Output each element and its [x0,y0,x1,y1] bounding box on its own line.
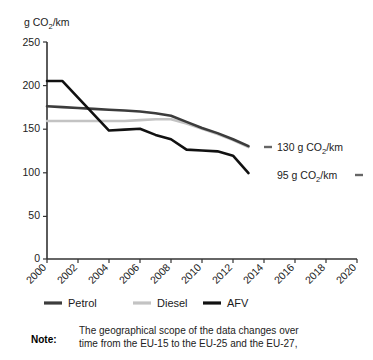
note-label: Note: [31,334,57,345]
x-tick-label: 2002 [54,261,79,286]
x-tick-labels: 2000 2002 2004 2006 2008 2010 2012 2014 … [23,261,358,286]
x-tick-label: 2008 [147,261,172,286]
annotation-target-130-label: 130 g CO2/km [277,141,343,156]
y-tick-label: 250 [22,36,40,48]
chart-figure: g CO2/km 250 200 150 100 50 0 [0,0,373,360]
note-block: Note: The geographical scope of the data… [31,325,299,349]
legend-item-afv[interactable]: AFV [203,297,249,309]
x-tick-label: 2018 [302,261,327,286]
series-line-petrol [47,106,249,146]
legend-item-diesel[interactable]: Diesel [133,297,188,309]
note-line-1: The geographical scope of the data chang… [79,325,299,336]
note-line-2: time from the EU-15 to the EU-25 and the… [79,338,297,349]
series-group [47,81,249,173]
annotation-target-130: 130 g CO2/km [264,141,343,156]
y-tick-label: 150 [22,122,40,134]
x-tick-label: 2000 [23,261,48,286]
y-tick-label: 200 [22,79,40,91]
x-tick-label: 2004 [85,261,110,286]
legend-label-afv: AFV [227,297,249,309]
x-tick-label: 2010 [178,261,203,286]
x-tick-label: 2014 [240,261,265,286]
annotation-target-95-label: 95 g CO2/km [277,169,337,184]
legend-label-diesel: Diesel [157,297,188,309]
y-axis-title: g CO2/km [24,16,70,31]
series-line-afv [47,81,249,173]
y-tick-label: 100 [22,166,40,178]
legend-label-petrol: Petrol [68,297,97,309]
x-tick-label: 2016 [271,261,296,286]
y-tick-label: 50 [28,209,40,221]
chart-legend: Petrol Diesel AFV [44,297,249,309]
legend-item-petrol[interactable]: Petrol [44,297,97,309]
chart-svg: g CO2/km 250 200 150 100 50 0 [0,0,373,360]
x-tick-label: 2012 [209,261,234,286]
x-tick-label: 2006 [116,261,141,286]
x-tick-label: 2020 [333,261,358,286]
annotation-target-95: 95 g CO2/km [277,169,363,184]
y-tick-labels: 250 200 150 100 50 0 [22,36,40,264]
